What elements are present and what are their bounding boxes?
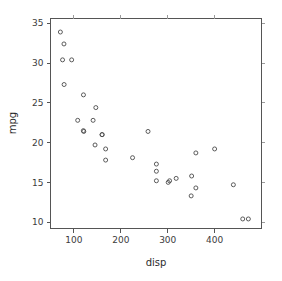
data-point (154, 179, 158, 183)
plot-canvas: 101520253035 100200300400 disp mpg (0, 0, 282, 281)
x-tick-label: 200 (112, 235, 129, 245)
x-tick-label: 100 (65, 235, 82, 245)
y-tick-label: 10 (32, 217, 44, 227)
y-tick-label: 35 (32, 18, 43, 28)
data-point (213, 147, 217, 151)
data-point (61, 58, 65, 62)
data-point (104, 158, 108, 162)
data-point (104, 147, 108, 151)
x-tick-label: 300 (159, 235, 176, 245)
data-point (58, 30, 62, 34)
data-point (62, 42, 66, 46)
x-axis-ticks: 100200300400 (65, 229, 223, 245)
x-tick-label: 400 (206, 235, 223, 245)
data-point (154, 162, 158, 166)
y-axis-title: mpg (7, 112, 18, 134)
data-point-layer (58, 30, 250, 221)
scatter-plot-figure: 101520253035 100200300400 disp mpg (0, 0, 282, 281)
data-point (81, 93, 85, 97)
data-point (131, 156, 135, 160)
data-point (194, 186, 198, 190)
x-axis-title: disp (146, 257, 167, 268)
data-point (93, 143, 97, 147)
plot-frame-box (51, 19, 262, 229)
y-tick-label: 25 (32, 98, 43, 108)
data-point (100, 133, 104, 137)
data-point (174, 176, 178, 180)
y-tick-label: 15 (32, 178, 43, 188)
data-point (190, 174, 194, 178)
y-tick-label: 30 (32, 58, 44, 68)
data-point (241, 217, 245, 221)
data-point (194, 151, 198, 155)
data-point (246, 217, 250, 221)
data-point (91, 118, 95, 122)
data-point (189, 194, 193, 198)
data-point (146, 129, 150, 133)
data-point (231, 183, 235, 187)
y-axis-ticks: 101520253035 (32, 18, 50, 227)
mirror-axis-ticks (74, 15, 265, 222)
data-point (154, 169, 158, 173)
data-point (62, 83, 66, 87)
data-point (76, 118, 80, 122)
data-point (94, 106, 98, 110)
data-point (70, 58, 74, 62)
y-tick-label: 20 (32, 138, 44, 148)
